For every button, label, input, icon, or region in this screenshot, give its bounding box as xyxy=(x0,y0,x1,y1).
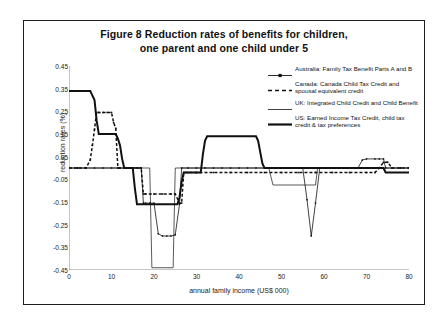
series-marker xyxy=(298,172,300,174)
series-marker xyxy=(136,167,138,169)
legend-label: Canada: Canada Child Tax Credit and spou… xyxy=(295,80,419,95)
series-line xyxy=(69,168,409,268)
legend-item[interactable]: US: Earned Income Tax Credit, child tax … xyxy=(267,114,419,129)
series-marker xyxy=(315,202,317,204)
series-marker xyxy=(213,172,215,174)
series-marker xyxy=(213,167,215,169)
series-marker xyxy=(247,167,249,169)
x-tick-label: 60 xyxy=(320,273,327,280)
series-marker xyxy=(204,167,206,169)
series-marker xyxy=(115,128,117,130)
series-marker xyxy=(281,172,283,174)
series-marker xyxy=(85,167,87,169)
x-tick-label: 20 xyxy=(150,273,157,280)
series-marker xyxy=(111,167,113,169)
series-marker xyxy=(306,199,308,201)
series-marker xyxy=(77,167,79,169)
series-marker xyxy=(332,172,334,174)
series-marker xyxy=(187,167,189,169)
series-marker xyxy=(379,158,381,160)
x-tick-label: 30 xyxy=(193,273,200,280)
series-marker xyxy=(181,167,183,169)
x-tick-label: 0 xyxy=(67,273,71,280)
series-marker xyxy=(247,172,249,174)
series-marker xyxy=(153,193,155,195)
figure-frame: Figure 8 Reduction rates of benefits for… xyxy=(23,20,425,305)
legend-label: Australia: Family Tax Benefit Parts A an… xyxy=(295,65,412,73)
series-1 xyxy=(69,158,409,237)
series-marker xyxy=(400,167,402,169)
chart-title-line-1: Figure 8 Reduction rates of benefits for… xyxy=(24,27,424,41)
chart-legend: Australia: Family Tax Benefit Parts A an… xyxy=(267,65,419,133)
series-marker xyxy=(196,167,198,169)
series-marker xyxy=(366,172,368,174)
legend-label: UK: Integrated Child Credit and Child Be… xyxy=(295,99,418,107)
series-marker xyxy=(102,112,104,114)
legend-item[interactable]: Canada: Canada Child Tax Credit and spou… xyxy=(267,80,419,95)
chart-title: Figure 8 Reduction rates of benefits for… xyxy=(24,27,424,55)
y-tick-label: -0.25 xyxy=(53,221,68,228)
series-line xyxy=(69,159,409,236)
series-marker xyxy=(383,158,385,160)
x-axis-tick-labels: 01020304050607080 xyxy=(69,273,409,287)
series-marker xyxy=(111,112,113,114)
series-marker xyxy=(98,112,100,114)
series-marker xyxy=(374,172,376,174)
series-marker xyxy=(141,167,143,169)
x-tick-label: 40 xyxy=(235,273,242,280)
series-marker xyxy=(311,235,313,237)
series-marker xyxy=(362,159,364,161)
series-marker xyxy=(102,167,104,169)
series-marker xyxy=(92,145,94,147)
y-axis-title: reduction rates (%) xyxy=(59,83,66,203)
x-tick-label: 80 xyxy=(405,273,412,280)
x-tick-label: 10 xyxy=(108,273,115,280)
x-axis-title: annual family income (US$ 000) xyxy=(69,287,409,294)
y-tick-label: -0.35 xyxy=(53,244,68,251)
series-marker xyxy=(94,167,96,169)
series-marker xyxy=(162,235,164,237)
series-marker xyxy=(374,158,376,160)
series-marker xyxy=(174,193,176,195)
series-marker xyxy=(170,235,172,237)
legend-item[interactable]: Australia: Family Tax Benefit Parts A an… xyxy=(267,65,419,75)
series-marker xyxy=(158,233,160,235)
legend-item[interactable]: UK: Integrated Child Credit and Child Be… xyxy=(267,99,419,109)
series-marker xyxy=(387,162,389,164)
series-marker xyxy=(175,234,177,236)
series-marker xyxy=(162,193,164,195)
series-marker xyxy=(385,167,387,169)
series-marker xyxy=(170,193,172,195)
series-marker xyxy=(94,129,96,131)
legend-key-icon xyxy=(267,100,293,109)
legend-key-icon xyxy=(267,115,293,124)
legend-label: US: Earned Income Tax Credit, child tax … xyxy=(295,114,419,129)
series-marker xyxy=(113,122,115,124)
series-marker xyxy=(366,158,368,160)
series-3 xyxy=(69,168,409,268)
series-marker xyxy=(181,202,183,204)
legend-key-icon xyxy=(267,81,293,90)
series-marker xyxy=(264,172,266,174)
series-marker xyxy=(230,167,232,169)
series-marker xyxy=(89,159,91,161)
series-marker xyxy=(238,167,240,169)
series-marker xyxy=(255,167,257,169)
series-marker xyxy=(315,172,317,174)
series-marker xyxy=(179,204,181,206)
chart-title-line-2: one parent and one child under 5 xyxy=(24,41,424,55)
series-marker xyxy=(221,167,223,169)
legend-marker xyxy=(279,74,282,77)
series-marker xyxy=(69,167,70,169)
series-marker xyxy=(106,112,108,114)
series-marker xyxy=(166,235,168,237)
series-marker xyxy=(145,193,147,195)
x-tick-label: 70 xyxy=(363,273,370,280)
x-tick-label: 50 xyxy=(278,273,285,280)
y-tick-label: 0.45 xyxy=(55,63,68,70)
legend-key-icon xyxy=(267,66,293,75)
series-marker xyxy=(349,172,351,174)
series-marker xyxy=(391,167,393,169)
series-marker xyxy=(408,167,409,169)
y-tick-label: -0.45 xyxy=(53,267,68,274)
